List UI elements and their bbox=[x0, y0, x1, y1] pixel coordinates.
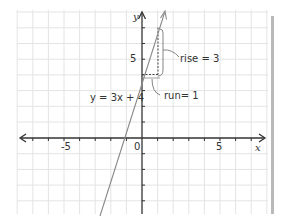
rise-run-guides bbox=[142, 28, 158, 75]
rise-label: rise = 3 bbox=[180, 54, 219, 64]
run-label: run= 1 bbox=[164, 91, 199, 101]
x-tick-label-neg5: -5 bbox=[61, 142, 71, 152]
x-tick-label-5: 5 bbox=[216, 142, 222, 152]
x-axis-label: x bbox=[255, 143, 261, 153]
y-axis-label: y bbox=[133, 12, 139, 22]
equation-label: y = 3x + 4 bbox=[90, 93, 144, 103]
page-edge-bar bbox=[271, 16, 274, 214]
y-axis bbox=[139, 12, 146, 214]
origin-label: 0 bbox=[134, 142, 140, 152]
coordinate-plane bbox=[0, 0, 284, 223]
y-tick-label-5: 5 bbox=[130, 54, 136, 64]
